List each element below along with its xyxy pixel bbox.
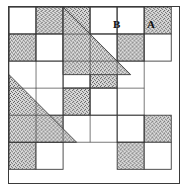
pattern-plate: B A bbox=[8, 6, 180, 184]
patch-stipple bbox=[36, 7, 63, 34]
patch-plain bbox=[117, 7, 144, 34]
patch-stipple bbox=[63, 88, 90, 115]
patch-plain bbox=[36, 34, 63, 61]
patch-plain bbox=[117, 115, 144, 142]
patch-plain bbox=[90, 88, 117, 115]
patch-stipple bbox=[117, 142, 144, 169]
patch-stipple bbox=[117, 34, 144, 61]
figure-container: B A bbox=[0, 0, 187, 193]
patch-stipple bbox=[144, 115, 171, 142]
pattern-canvas bbox=[9, 7, 179, 183]
label-b: B bbox=[113, 19, 120, 30]
patch-plain bbox=[9, 7, 36, 34]
patch-plain bbox=[36, 142, 63, 169]
label-a: A bbox=[147, 19, 155, 30]
patch-stipple bbox=[9, 142, 36, 169]
patch-plain bbox=[144, 142, 171, 169]
patch-plain bbox=[144, 34, 171, 61]
patch-stipple bbox=[9, 34, 36, 61]
